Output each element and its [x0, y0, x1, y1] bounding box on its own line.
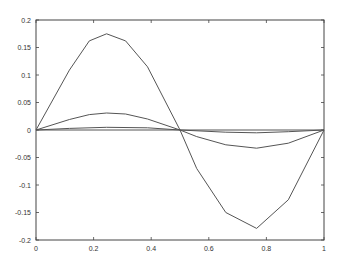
x-tick-label: 1: [322, 245, 326, 252]
x-tick-label: 0.4: [146, 245, 156, 252]
x-tick-label: 0.6: [204, 245, 214, 252]
x-tick-label: 0: [34, 245, 38, 252]
y-tick-label: 0: [27, 127, 31, 134]
y-tick-label: -0.15: [15, 209, 31, 216]
y-tick-label: -0.05: [15, 154, 31, 161]
y-tick-label: 0.15: [17, 44, 31, 51]
y-tick-label: -0.2: [19, 237, 31, 244]
y-tick-label: -0.1: [19, 182, 31, 189]
line-chart: 00.20.40.60.81 0.20.150.10.050-0.05-0.1-…: [0, 0, 340, 266]
y-tick-label: 0.05: [17, 99, 31, 106]
x-tick-label: 0.2: [89, 245, 99, 252]
x-tick-label: 0.8: [262, 245, 272, 252]
y-tick-label: 0.2: [21, 17, 31, 24]
y-tick-label: 0.1: [21, 72, 31, 79]
